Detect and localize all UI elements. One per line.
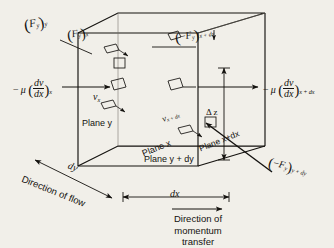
leader-force-y-at-y [60,40,92,54]
arrow-shear-right [168,78,258,90]
dimension-dx [123,192,229,202]
velocity-element-vx [101,100,125,112]
box-bottom-back-edge [78,146,265,166]
box-top-face [78,13,265,33]
shear-element-top-left [104,44,128,68]
box-right-face [198,146,265,166]
momentum-transfer-figure [0,0,334,248]
shear-element-top-middle [168,30,214,40]
arrow-shear-left [62,78,126,90]
arrow-force-y-at-y-plus-dy [206,123,272,172]
